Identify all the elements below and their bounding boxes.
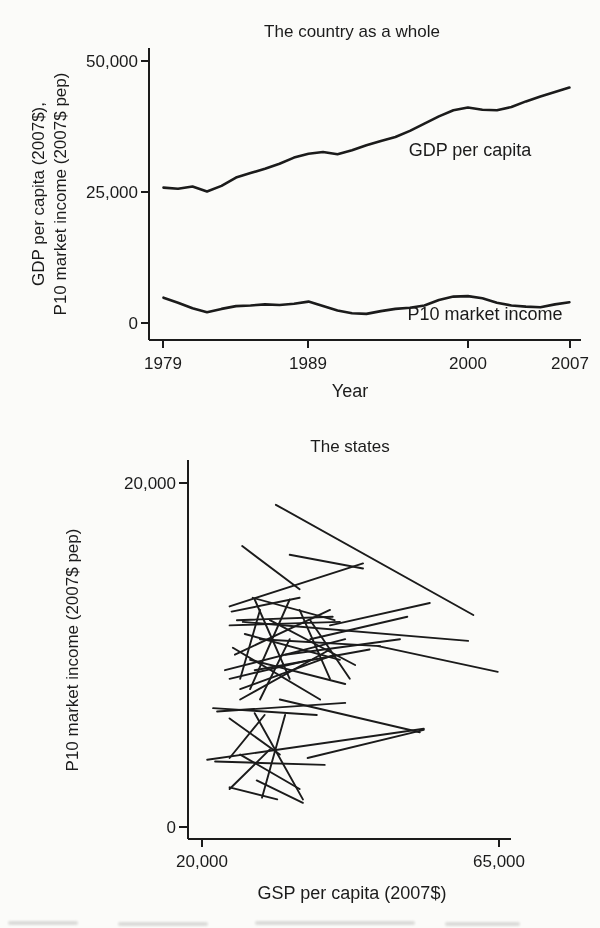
top-y-axis-title-line1: GDP per capita (2007$), (29, 102, 48, 286)
state-trend-segment (232, 598, 300, 612)
bottom-x-tick-marks (202, 839, 499, 847)
state-trend-segment (290, 555, 363, 569)
top-y-tick-label-0: 0 (129, 314, 138, 333)
country-chart-canvas: The country as a whole 50,000 25,000 0 1… (0, 0, 600, 420)
cutoff-caption-fragment (255, 921, 415, 925)
state-trend-segment (276, 505, 473, 615)
bottom-chart-title: The states (310, 437, 389, 456)
state-trend-segment (245, 634, 340, 660)
state-trend-segment (242, 546, 299, 589)
states-chart-canvas: The states 20,000 0 20,000 65,000 GSP pe… (0, 420, 600, 928)
cutoff-caption-fragment (8, 921, 78, 925)
state-trend-segment (308, 730, 424, 758)
bottom-y-axis-title: P10 market income (2007$ pep) (63, 529, 82, 772)
top-y-tick-label-25000: 25,000 (86, 183, 138, 202)
states-chart: The states 20,000 0 20,000 65,000 GSP pe… (0, 420, 600, 928)
state-trend-segment (280, 700, 420, 733)
top-series-lines (164, 88, 570, 314)
top-chart-title: The country as a whole (264, 22, 440, 41)
top-y-axis-title-line2: P10 market income (2007$ pep) (51, 73, 70, 316)
state-trend-segment (230, 563, 363, 606)
bottom-y-tick-label-0: 0 (167, 818, 176, 837)
state-trend-segment (253, 598, 335, 620)
top-x-tick-label-2007: 2007 (551, 354, 589, 373)
scanned-figure-page: The country as a whole 50,000 25,000 0 1… (0, 0, 600, 928)
state-trend-segment (240, 755, 299, 789)
bottom-y-tick-label-20000: 20,000 (124, 474, 176, 493)
state-trend-segment (378, 646, 498, 672)
top-y-tick-marks (141, 61, 149, 323)
state-trend-segment (330, 603, 430, 625)
bottom-y-tick-marks (179, 483, 188, 827)
top-x-axis-title: Year (332, 381, 368, 401)
gdp-line-annotation: GDP per capita (409, 140, 533, 160)
top-x-tick-label-2000: 2000 (449, 354, 487, 373)
top-x-tick-marks (163, 340, 570, 348)
country-chart: The country as a whole 50,000 25,000 0 1… (0, 0, 600, 420)
state-trend-segment (240, 650, 330, 700)
state-trend-segment (215, 762, 325, 765)
top-x-tick-label-1979: 1979 (144, 354, 182, 373)
bottom-x-tick-label-65000: 65,000 (473, 852, 525, 871)
cutoff-caption-fragment (445, 922, 520, 926)
state-trend-segment (237, 617, 333, 620)
state-trend-segments (207, 505, 498, 803)
top-x-tick-label-1989: 1989 (289, 354, 327, 373)
top-axes (141, 48, 581, 348)
p10-line-annotation: P10 market income (407, 304, 562, 324)
top-y-tick-label-50000: 50,000 (86, 52, 138, 71)
bottom-x-axis-title: GSP per capita (2007$) (258, 883, 447, 903)
state-trend-segment (230, 787, 278, 799)
cutoff-caption-fragment (118, 922, 208, 926)
bottom-x-tick-label-20000: 20,000 (176, 852, 228, 871)
